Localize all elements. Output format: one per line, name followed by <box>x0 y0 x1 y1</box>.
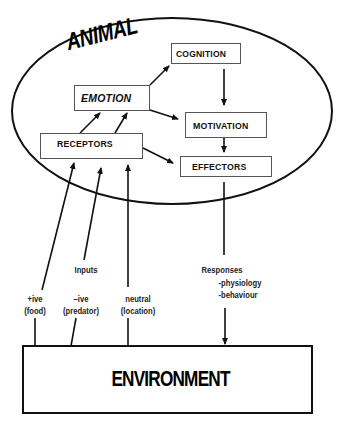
responses-heading: Responses <box>198 265 246 276</box>
inputs-heading: Inputs <box>71 265 102 276</box>
input-negative-line2: (predator) <box>59 306 103 317</box>
arrow-receptors-emotion-2 <box>115 113 127 133</box>
arrow-emotion-motivation <box>150 110 178 119</box>
receptors-node: RECEPTORS <box>40 133 143 159</box>
emotion-label: EMOTION <box>81 92 131 104</box>
cognition-node: COGNITION <box>171 43 241 64</box>
effectors-label: EFFECTORS <box>192 161 246 172</box>
environment-label: ENVIRONMENT <box>38 366 304 392</box>
motivation-node: MOTIVATION <box>185 112 267 138</box>
input-negative-line1: –ive <box>67 294 96 305</box>
responses-item-behaviour: -behaviour <box>214 290 262 301</box>
input-neutral-line1: neutral <box>118 294 159 305</box>
effectors-node: EFFECTORS <box>180 156 272 177</box>
cognition-label: COGNITION <box>176 48 226 59</box>
motivation-label: MOTIVATION <box>193 120 248 131</box>
receptors-label: RECEPTORS <box>57 138 113 149</box>
arrow-emotion-cognition <box>150 66 169 85</box>
arrow-receptors-effectors <box>143 148 173 163</box>
responses-item-physiology: -physiology <box>216 278 264 289</box>
arrow-input-positive <box>42 163 74 290</box>
input-neutral-line2: (location) <box>116 306 160 317</box>
diagram-canvas <box>0 0 341 428</box>
emotion-node: EMOTION <box>74 85 150 111</box>
line-input-negative-base <box>71 318 76 346</box>
arrow-input-negative <box>84 168 101 260</box>
arrow-receptors-emotion-1 <box>80 113 100 133</box>
input-positive-line1: +ive <box>21 294 50 305</box>
input-positive-line2: (food) <box>19 306 51 317</box>
